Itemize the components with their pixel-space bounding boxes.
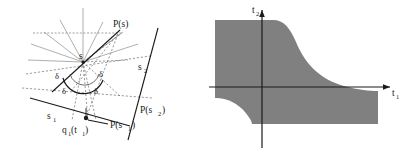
label-q1-arg-close: ) bbox=[85, 125, 88, 136]
label-line-s2: s 2 bbox=[138, 62, 147, 74]
ray-fan-light bbox=[28, 8, 138, 62]
right-diagram-svg: t 2 t 1 bbox=[204, 0, 407, 156]
label-line-s1-base: s bbox=[47, 111, 51, 121]
label-image-s2: P(s 2 ) bbox=[140, 105, 165, 117]
label-image-s1-base: P(s bbox=[110, 120, 122, 131]
label-q1-base: q bbox=[62, 125, 67, 135]
label-image-s1: P(s 1 ) bbox=[110, 120, 135, 132]
segment-image-s1 bbox=[88, 120, 108, 124]
label-point-q1: q 1 (t 1 ) bbox=[62, 125, 88, 137]
label-axis-t2-base: t bbox=[252, 5, 255, 15]
label-axis-t1-base: t bbox=[392, 88, 395, 98]
label-line-s2-sub: 2 bbox=[144, 67, 147, 74]
label-image-s2-base: P(s bbox=[140, 105, 152, 116]
label-image-s1-close: ) bbox=[132, 120, 135, 131]
label-axis-t2-sub: 2 bbox=[256, 10, 259, 17]
label-axis-t1-sub: 1 bbox=[396, 93, 399, 100]
label-axis-t1: t 1 bbox=[392, 88, 399, 100]
label-line-s1: s 1 bbox=[47, 111, 56, 123]
left-panel: P(s) s s 2 P(s 2 ) s 1 P(s 1 ) q bbox=[0, 0, 204, 156]
label-image-s2-close: ) bbox=[162, 105, 165, 116]
label-line-s2-base: s bbox=[138, 62, 142, 72]
label-delta-lower-left: δ bbox=[62, 86, 66, 96]
label-line-s1-sub: 1 bbox=[53, 116, 56, 123]
right-panel: t 2 t 1 bbox=[204, 0, 407, 156]
label-image-s1-sub: 1 bbox=[128, 125, 131, 132]
region-carving-group bbox=[215, 20, 378, 124]
figure-canvas: P(s) s s 2 P(s 2 ) s 1 P(s 1 ) q bbox=[0, 0, 407, 156]
label-q1-arg-open: (t bbox=[71, 125, 77, 136]
label-image-s2-sub: 2 bbox=[158, 110, 161, 117]
label-axis-t2: t 2 bbox=[252, 5, 259, 17]
axis-horizontal-arrowhead bbox=[383, 84, 390, 90]
label-delta-upper-left: δ bbox=[55, 71, 59, 81]
label-apex-s: s bbox=[79, 51, 83, 61]
label-image-of-s: P(s) bbox=[113, 19, 128, 30]
axis-vertical-arrowhead bbox=[259, 10, 265, 17]
left-diagram-svg: P(s) s s 2 P(s 2 ) s 1 P(s 1 ) q bbox=[0, 0, 204, 156]
label-delta-lower-right: δ bbox=[94, 86, 98, 96]
label-delta-upper-right: δ bbox=[99, 69, 103, 79]
